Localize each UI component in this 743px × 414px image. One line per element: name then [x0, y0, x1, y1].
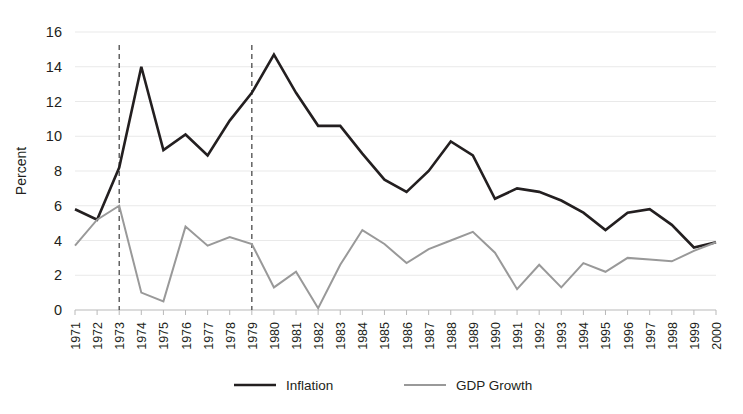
x-tick-label-1985: 1985 [378, 322, 392, 350]
x-tick-label-1978: 1978 [224, 322, 238, 350]
y-tick-label-2: 2 [54, 267, 62, 283]
y-tick-label-14: 14 [46, 59, 62, 75]
x-tick-label-1998: 1998 [666, 322, 680, 350]
y-tick-label-16: 16 [46, 24, 62, 40]
gridlines [75, 32, 716, 310]
y-tick-label-12: 12 [46, 94, 62, 110]
x-tick-label-1984: 1984 [356, 322, 370, 350]
x-tick-label-1974: 1974 [135, 322, 149, 350]
x-tick-label-1983: 1983 [334, 322, 348, 350]
event-marker-lines [119, 45, 252, 310]
x-tick-label-1975: 1975 [157, 322, 171, 350]
x-tick-label-1986: 1986 [401, 322, 415, 350]
series-line-gdp-growth [75, 206, 716, 309]
x-tick-label-1995: 1995 [599, 322, 613, 350]
x-tick-label-1981: 1981 [290, 322, 304, 350]
x-tick-label-1990: 1990 [489, 322, 503, 350]
y-axis-label: Percent [13, 147, 29, 195]
x-axis-tick-labels: 1971197219731974197519761977197819791980… [69, 322, 724, 350]
data-series [75, 55, 716, 309]
x-tick-label-1999: 1999 [688, 322, 702, 350]
x-tick-label-1979: 1979 [246, 322, 260, 350]
x-tick-label-1980: 1980 [268, 322, 282, 350]
x-tick-label-2000: 2000 [710, 322, 724, 350]
x-tick-label-1992: 1992 [533, 322, 547, 350]
legend-label-inflation: Inflation [286, 378, 333, 393]
x-tick-label-1994: 1994 [577, 322, 591, 350]
x-tick-label-1987: 1987 [423, 322, 437, 350]
x-tick-label-1989: 1989 [467, 322, 481, 350]
chart-container: 0246810121416 19711972197319741975197619… [0, 0, 743, 414]
y-tick-label-0: 0 [54, 302, 62, 318]
y-tick-label-4: 4 [54, 233, 62, 249]
y-tick-label-6: 6 [54, 198, 62, 214]
x-tick-label-1973: 1973 [113, 322, 127, 350]
x-tick-label-1977: 1977 [202, 322, 216, 350]
x-tick-label-1982: 1982 [312, 322, 326, 350]
x-tick-label-1988: 1988 [445, 322, 459, 350]
chart-legend: InflationGDP Growth [234, 378, 532, 393]
x-tick-label-1971: 1971 [69, 322, 83, 350]
x-tick-label-1993: 1993 [555, 322, 569, 350]
x-tick-label-1976: 1976 [180, 322, 194, 350]
series-line-inflation [75, 55, 716, 248]
x-tick-label-1972: 1972 [91, 322, 105, 350]
y-tick-label-10: 10 [46, 128, 62, 144]
axis-ticks [75, 310, 716, 315]
y-axis-tick-labels: 0246810121416 [46, 24, 62, 318]
x-tick-label-1996: 1996 [622, 322, 636, 350]
legend-label-gdp-growth: GDP Growth [456, 378, 532, 393]
x-tick-label-1997: 1997 [644, 322, 658, 350]
line-chart: 0246810121416 19711972197319741975197619… [0, 0, 743, 414]
x-tick-label-1991: 1991 [511, 322, 525, 350]
y-tick-label-8: 8 [54, 163, 62, 179]
